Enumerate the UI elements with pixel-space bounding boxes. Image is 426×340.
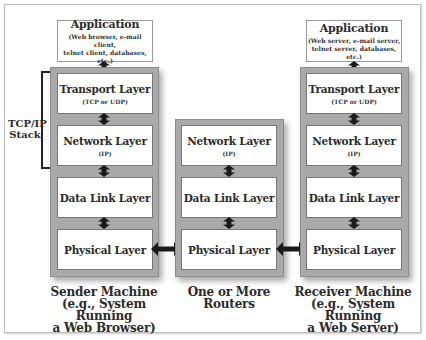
receiver-application-box: Application (Web server, e-mail server, …	[306, 20, 402, 62]
sender-caption-line3: a Web Browser)	[38, 322, 170, 334]
receiver-datalink-physical-arrow-icon	[347, 217, 361, 229]
receiver-network-layer: Network Layer (IP)	[306, 125, 402, 166]
router-network-datalink-arrow-icon	[222, 165, 236, 177]
router-caption: One or More Routers	[170, 286, 288, 310]
receiver-physical-title: Physical Layer	[313, 244, 395, 256]
sender-application-box: Application (Web browser, e-mail client,…	[57, 20, 153, 62]
receiver-physical-layer: Physical Layer	[306, 229, 402, 270]
receiver-app-sub-line2: telnet server, databases, etc.)	[307, 45, 401, 61]
receiver-datalink-layer: Data Link Layer	[306, 177, 402, 218]
sender-application-title: Application	[71, 18, 140, 31]
sender-network-datalink-arrow-icon	[97, 165, 111, 177]
sender-datalink-layer: Data Link Layer	[57, 177, 153, 218]
sender-application-subtitle: (Web browser, e-mail client, telnet clie…	[58, 33, 152, 65]
sender-caption: Sender Machine (e.g., System Running a W…	[38, 286, 170, 334]
router-network-layer: Network Layer (IP)	[181, 125, 277, 166]
sender-transport-title: Transport Layer	[60, 83, 151, 95]
receiver-network-datalink-arrow-icon	[347, 165, 361, 177]
receiver-caption: Receiver Machine (e.g., System Running a…	[286, 286, 420, 334]
sender-transport-layer: Transport Layer (TCP or UDP)	[57, 73, 153, 114]
router-physical-layer: Physical Layer	[181, 229, 277, 270]
sender-network-subtitle: (IP)	[99, 150, 112, 157]
receiver-network-subtitle: (IP)	[348, 150, 361, 157]
receiver-application-subtitle: (Web server, e-mail server, telnet serve…	[307, 37, 401, 61]
sender-caption-line2: (e.g., System Running	[38, 298, 170, 322]
sender-network-layer: Network Layer (IP)	[57, 125, 153, 166]
sender-transport-network-arrow-icon	[97, 113, 111, 125]
receiver-app-sub-line1: (Web server, e-mail server,	[307, 37, 401, 45]
receiver-transport-subtitle: (TCP or UDP)	[331, 98, 377, 105]
receiver-application-title: Application	[320, 22, 389, 35]
stack-label-text: TCP/IP Stack	[8, 118, 47, 140]
router-datalink-physical-arrow-icon	[222, 217, 236, 229]
sender-transport-subtitle: (TCP or UDP)	[82, 98, 128, 105]
sender-network-title: Network Layer	[63, 135, 147, 147]
receiver-transport-network-arrow-icon	[347, 113, 361, 125]
receiver-transport-title: Transport Layer	[309, 83, 400, 95]
router-network-subtitle: (IP)	[223, 150, 236, 157]
router-datalink-title: Data Link Layer	[184, 192, 275, 204]
tcpip-stack-label: TCP/IP Stack	[8, 118, 42, 140]
router-caption-line2: Routers	[170, 298, 288, 310]
sender-app-sub-line1: (Web browser, e-mail client,	[58, 33, 152, 49]
sender-physical-title: Physical Layer	[64, 244, 146, 256]
sender-physical-layer: Physical Layer	[57, 229, 153, 270]
receiver-network-title: Network Layer	[312, 135, 396, 147]
router-physical-title: Physical Layer	[188, 244, 270, 256]
sender-datalink-title: Data Link Layer	[60, 192, 151, 204]
receiver-transport-layer: Transport Layer (TCP or UDP)	[306, 73, 402, 114]
receiver-caption-line3: a Web Server)	[286, 322, 420, 334]
sender-datalink-physical-arrow-icon	[97, 217, 111, 229]
receiver-datalink-title: Data Link Layer	[309, 192, 400, 204]
receiver-caption-line2: (e.g., System Running	[286, 298, 420, 322]
router-datalink-layer: Data Link Layer	[181, 177, 277, 218]
router-network-title: Network Layer	[187, 135, 271, 147]
